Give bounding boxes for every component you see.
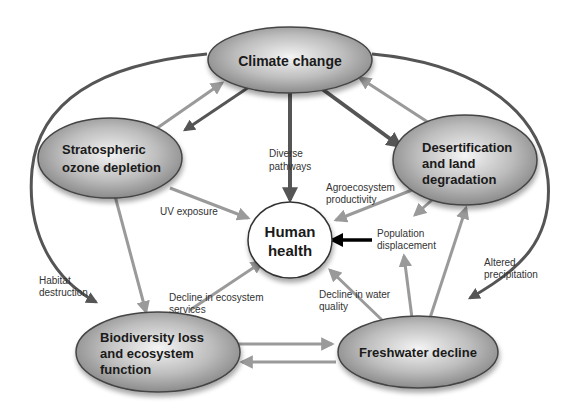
node-climate-change-label: Climate change <box>238 53 342 69</box>
label-uv: UV exposure <box>160 206 218 217</box>
label-diverse-1: Diverse <box>269 148 303 159</box>
node-desert-label-3: degradation <box>422 172 496 187</box>
label-habitat-2: destruction <box>39 287 88 298</box>
label-water-quality-1: Decline in water <box>319 289 391 300</box>
node-human-health <box>248 202 332 278</box>
label-precip-1: Altered <box>484 257 516 268</box>
edge-ozone-to-biodiversity <box>115 196 146 312</box>
node-desert-label-1: Desertification <box>422 140 512 155</box>
node-ozone-depletion <box>38 118 182 198</box>
label-population-2: displacement <box>377 240 436 251</box>
node-health-label-2: health <box>268 242 312 259</box>
label-habitat-1: Habitat <box>39 275 71 286</box>
node-desert-label-2: and land <box>422 156 476 171</box>
node-ozone-label-1: Stratospheric <box>62 142 146 157</box>
edge-climate-to-ozone <box>185 85 252 130</box>
label-eco-services-1: Decline in ecosystem <box>169 292 263 303</box>
label-diverse-2: pathways <box>269 161 311 172</box>
label-population-1: Population <box>377 228 424 239</box>
node-health-label-1: Human <box>265 223 316 240</box>
node-biodiv-label-2: and ecosystem <box>100 346 194 361</box>
label-agro-2: productivity <box>326 194 377 205</box>
label-precip-2: precipitation <box>484 269 538 280</box>
node-biodiv-label-1: Biodiversity loss <box>100 330 204 345</box>
node-freshwater-label: Freshwater decline <box>359 345 477 360</box>
label-water-quality-2: quality <box>319 301 348 312</box>
node-ozone-label-2: ozone depletion <box>62 160 161 175</box>
edge-desert-to-population <box>415 200 432 215</box>
edge-freshwater-to-population <box>404 256 412 318</box>
edge-freshwater-to-desert <box>430 208 466 318</box>
label-agro-1: Agroecosystem <box>326 182 395 193</box>
label-eco-services-2: services <box>169 304 206 315</box>
edge-ozone-to-climate <box>150 83 222 133</box>
node-biodiv-label-3: function <box>100 362 151 377</box>
diagram-canvas: Climate change Stratospheric ozone deple… <box>0 0 579 410</box>
